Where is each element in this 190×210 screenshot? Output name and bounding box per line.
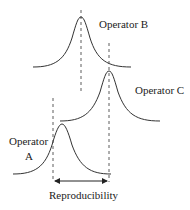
reproducibility-diagram: Operator B Operator C Operator A Reprodu… bbox=[0, 0, 190, 210]
reproducibility-label: Reproducibility bbox=[49, 190, 118, 201]
operator-b-label: Operator B bbox=[99, 19, 148, 30]
operator-c-curve bbox=[60, 71, 160, 121]
operator-a-label-line1: Operator bbox=[9, 136, 48, 147]
operator-c-label: Operator C bbox=[135, 85, 184, 96]
diagram-canvas bbox=[0, 0, 190, 210]
operator-a-label-line2: A bbox=[25, 151, 33, 162]
operator-a-curve bbox=[13, 124, 111, 174]
